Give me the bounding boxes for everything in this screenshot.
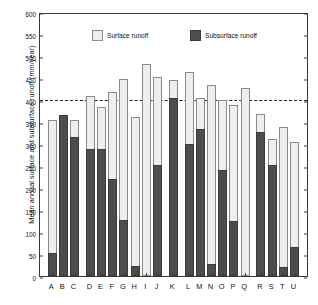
y-tick-mark-50 xyxy=(40,256,43,257)
x-tick-mark-F xyxy=(113,273,114,276)
bar-D-subsurface-segment xyxy=(86,149,95,276)
bar-H-surface-segment xyxy=(131,117,140,276)
y-tick-mark-right-500 xyxy=(304,58,307,59)
bar-B-subsurface-segment xyxy=(59,115,68,276)
bar-I xyxy=(142,64,151,276)
chart-legend: Surface runoff Subsurface runoff xyxy=(92,30,282,46)
y-tick-mark-250 xyxy=(40,168,43,169)
bar-C-subsurface-segment xyxy=(70,137,79,276)
x-tick-mark-N xyxy=(212,273,213,276)
y-tick-mark-right-300 xyxy=(304,146,307,147)
x-tick-mark-H xyxy=(135,273,136,276)
x-tick-label-S: S xyxy=(269,282,274,291)
runoff-bar-chart-figure: Mean annual surface and subsurface runof… xyxy=(0,0,318,305)
x-tick-mark-Q xyxy=(245,273,246,276)
y-tick-mark-right-150 xyxy=(304,212,307,213)
x-tick-mark-U xyxy=(295,273,296,276)
bar-E xyxy=(97,107,106,276)
y-tick-mark-right-100 xyxy=(304,234,307,235)
y-tick-label-200: 200 xyxy=(25,187,40,194)
y-tick-mark-450 xyxy=(40,80,43,81)
x-tick-label-T: T xyxy=(280,282,285,291)
y-tick-mark-right-0 xyxy=(304,278,307,279)
bar-L xyxy=(185,72,194,276)
bar-G xyxy=(119,79,128,276)
x-tick-label-H: H xyxy=(131,282,136,291)
y-tick-label-400: 400 xyxy=(25,99,40,106)
y-tick-label-300: 300 xyxy=(25,143,40,150)
y-tick-mark-right-550 xyxy=(304,36,307,37)
y-tick-label-50: 50 xyxy=(29,253,40,260)
y-tick-mark-right-50 xyxy=(304,256,307,257)
bar-U-subsurface-segment xyxy=(290,247,299,276)
y-tick-mark-right-250 xyxy=(304,168,307,169)
bar-K xyxy=(169,80,178,276)
dark-square-icon xyxy=(190,30,201,41)
y-tick-label-600: 600 xyxy=(25,11,40,18)
bar-A xyxy=(48,120,57,276)
y-tick-mark-500 xyxy=(40,58,43,59)
y-tick-mark-550 xyxy=(40,36,43,37)
bar-O-subsurface-segment xyxy=(218,170,227,276)
y-tick-mark-right-600 xyxy=(304,14,307,15)
y-tick-mark-right-350 xyxy=(304,124,307,125)
bar-E-subsurface-segment xyxy=(97,149,106,276)
legend-label-subsurface-runoff: Subsurface runoff xyxy=(205,32,257,39)
bar-T xyxy=(279,127,288,276)
y-tick-mark-350 xyxy=(40,124,43,125)
x-tick-label-C: C xyxy=(71,282,76,291)
bar-Q-surface-segment xyxy=(241,88,250,276)
legend-entry-surface-runoff: Surface runoff xyxy=(92,30,148,41)
legend-entry-subsurface-runoff: Subsurface runoff xyxy=(190,30,257,41)
x-tick-label-P: P xyxy=(230,282,235,291)
y-tick-label-0: 0 xyxy=(32,275,40,282)
bar-R-subsurface-segment xyxy=(256,132,265,276)
x-tick-mark-E xyxy=(102,273,103,276)
bar-I-surface-segment xyxy=(142,64,151,276)
x-tick-label-I: I xyxy=(144,282,146,291)
plot-area: 050100150200250300350400450500550600 Sur… xyxy=(39,13,308,277)
y-tick-label-150: 150 xyxy=(25,209,40,216)
bar-L-subsurface-segment xyxy=(185,144,194,276)
bar-F-subsurface-segment xyxy=(108,179,117,276)
y-tick-mark-right-450 xyxy=(304,80,307,81)
x-tick-mark-L xyxy=(189,273,190,276)
x-tick-label-A: A xyxy=(49,282,54,291)
bar-O xyxy=(218,100,227,276)
x-tick-label-F: F xyxy=(109,282,114,291)
bar-N-surface-segment xyxy=(207,85,216,276)
y-tick-mark-right-400 xyxy=(304,102,307,103)
y-tick-label-250: 250 xyxy=(25,165,40,172)
x-tick-label-L: L xyxy=(186,282,190,291)
x-tick-mark-O xyxy=(223,273,224,276)
x-tick-mark-P xyxy=(234,273,235,276)
legend-label-surface-runoff: Surface runoff xyxy=(107,32,148,39)
x-tick-mark-A xyxy=(52,273,53,276)
bar-U xyxy=(290,142,299,276)
y-tick-mark-200 xyxy=(40,190,43,191)
x-tick-label-K: K xyxy=(170,282,175,291)
x-tick-label-J: J xyxy=(155,282,159,291)
y-tick-label-450: 450 xyxy=(25,77,40,84)
bar-T-surface-segment xyxy=(279,127,288,276)
x-tick-mark-G xyxy=(124,273,125,276)
bar-J xyxy=(153,77,162,276)
x-tick-mark-R xyxy=(261,273,262,276)
x-tick-mark-C xyxy=(75,273,76,276)
x-tick-mark-J xyxy=(158,273,159,276)
y-axis-title: Mean annual surface and subsurface runof… xyxy=(27,35,36,235)
y-tick-label-350: 350 xyxy=(25,121,40,128)
y-tick-mark-150 xyxy=(40,212,43,213)
x-tick-mark-D xyxy=(90,273,91,276)
x-tick-mark-I xyxy=(146,273,147,276)
x-tick-label-Q: Q xyxy=(241,282,247,291)
x-tick-label-R: R xyxy=(257,282,262,291)
y-tick-mark-600 xyxy=(40,14,43,15)
y-tick-mark-300 xyxy=(40,146,43,147)
y-tick-mark-100 xyxy=(40,234,43,235)
x-tick-mark-S xyxy=(272,273,273,276)
y-tick-mark-400 xyxy=(40,102,43,103)
bar-M xyxy=(196,98,205,276)
bar-S-subsurface-segment xyxy=(268,165,277,276)
bar-G-subsurface-segment xyxy=(119,220,128,276)
